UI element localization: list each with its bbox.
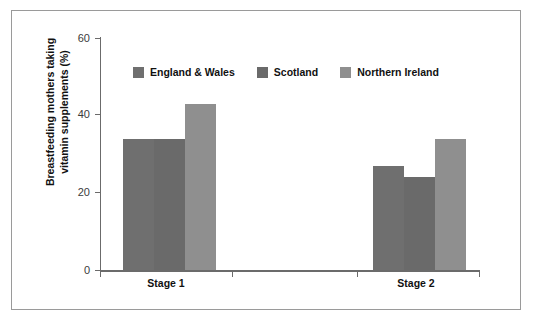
- bar-stage-2-northern-ireland: [435, 139, 466, 270]
- legend-label-scotland: Scotland: [274, 66, 318, 78]
- x-category-label-stage-1: Stage 1: [106, 277, 226, 289]
- x-category-label-stage-2: Stage 2: [356, 277, 476, 289]
- x-tick-end: [479, 272, 480, 277]
- y-tick-40: [95, 114, 100, 115]
- legend-item-england-wales: England & Wales: [133, 66, 235, 78]
- y-axis-line: [100, 37, 101, 271]
- legend-swatch-northern-ireland: [340, 67, 351, 78]
- x-tick-mid: [232, 272, 233, 277]
- legend-label-northern-ireland: Northern Ireland: [357, 66, 439, 78]
- legend-swatch-england-wales: [133, 67, 144, 78]
- legend-item-northern-ireland: Northern Ireland: [340, 66, 439, 78]
- bar-stage-1-scotland: [154, 139, 185, 270]
- x-tick-start: [100, 272, 101, 277]
- bar-stage-1-northern-ireland: [185, 104, 216, 270]
- bar-stage-2-england-wales: [373, 166, 404, 270]
- legend-item-scotland: Scotland: [257, 66, 318, 78]
- y-axis-title-line-1: Breastfeeding mothers taking: [43, 17, 57, 207]
- y-tick-label-20: 20: [60, 186, 90, 198]
- y-tick-20: [95, 192, 100, 193]
- bar-stage-1-england-wales: [123, 139, 154, 270]
- bar-chart: Breastfeeding mothers taking vitamin sup…: [0, 0, 534, 323]
- legend-swatch-scotland: [257, 67, 268, 78]
- legend-label-england-wales: England & Wales: [150, 66, 235, 78]
- y-tick-label-60: 60: [60, 32, 90, 44]
- y-tick-label-0: 0: [60, 264, 90, 276]
- legend: England & Wales Scotland Northern Irelan…: [133, 66, 439, 78]
- x-axis-line: [100, 270, 480, 272]
- y-tick-label-40: 40: [60, 108, 90, 120]
- y-tick-60: [95, 38, 100, 39]
- bar-stage-2-scotland: [404, 177, 435, 270]
